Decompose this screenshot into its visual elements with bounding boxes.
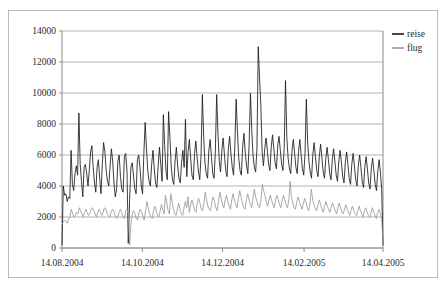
y-tick-label: 0 xyxy=(51,243,56,253)
y-tick-labels-group: 02000400060008000100001200014000 xyxy=(32,26,56,253)
y-tick-label: 8000 xyxy=(37,119,56,129)
y-tick-label: 14000 xyxy=(32,26,56,36)
y-tick-label: 6000 xyxy=(37,150,56,160)
x-tick-label: 14.04.2005 xyxy=(362,258,405,268)
legend-label-reise: reise xyxy=(407,29,425,39)
x-tick-label: 14.02.2005 xyxy=(283,258,326,268)
x-tick-marks-group xyxy=(62,248,383,252)
chart-legend: reiseflug xyxy=(392,29,425,53)
legend-label-flug: flug xyxy=(407,43,423,53)
data-series-group xyxy=(62,47,383,245)
y-tick-label: 4000 xyxy=(37,181,56,191)
y-tick-label: 12000 xyxy=(32,57,56,67)
series-line-flug xyxy=(62,181,383,245)
x-tick-label: 14.10.2004 xyxy=(121,258,164,268)
y-tick-label: 10000 xyxy=(32,88,56,98)
y-tick-label: 2000 xyxy=(37,212,56,222)
x-tick-label: 14.08.2004 xyxy=(41,258,84,268)
line-chart: 02000400060008000100001200014000 14.08.2… xyxy=(0,0,448,289)
x-tick-label: 14.12.2004 xyxy=(201,258,244,268)
x-tick-labels-group: 14.08.200414.10.200414.12.200414.02.2005… xyxy=(41,258,405,268)
